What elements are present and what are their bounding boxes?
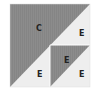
subdivided-square-diagram: C E E E E <box>0 0 97 99</box>
label-bottom-left-light: E <box>37 70 42 79</box>
label-bottom-right-light: E <box>79 70 84 79</box>
label-bottom-right-dark: E <box>64 56 69 65</box>
label-top-right-light: E <box>79 29 84 38</box>
label-big-triangle: C <box>36 24 42 33</box>
